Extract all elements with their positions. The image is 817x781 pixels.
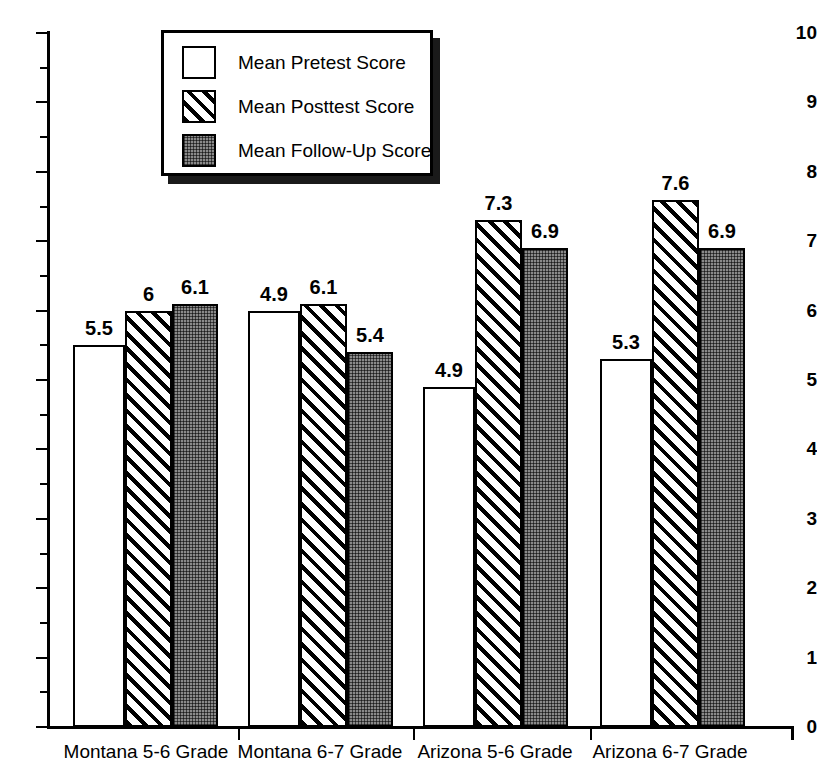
bar-value-label: 6.1	[294, 277, 354, 297]
bar-value-label: 7.6	[646, 173, 706, 193]
y-axis-major-tick	[36, 171, 48, 173]
legend-label: Mean Follow-Up Score	[238, 141, 431, 160]
y-axis-tick-label: 6	[785, 301, 817, 320]
bar-chart: 012345678910 5.566.14.96.15.44.97.36.95.…	[0, 0, 817, 781]
category-label: Montana 6-7 Grade	[220, 742, 420, 761]
y-axis-major-tick	[36, 448, 48, 450]
category-label: Arizona 5-6 Grade	[395, 742, 595, 761]
y-axis-tick-label: 3	[785, 509, 817, 528]
y-axis-tick-label: 4	[785, 439, 817, 458]
y-axis-major-tick	[36, 32, 48, 34]
y-axis-minor-tick	[40, 206, 48, 208]
y-axis-minor-tick	[40, 136, 48, 138]
x-axis-end-tick	[791, 729, 794, 740]
bar	[248, 311, 300, 727]
legend-item: Mean Pretest Score	[182, 45, 406, 79]
y-axis-major-tick	[36, 101, 48, 103]
chart-legend: Mean Pretest ScoreMean Posttest ScoreMea…	[161, 30, 433, 176]
y-axis-tick-label: 7	[785, 231, 817, 250]
bar	[73, 345, 125, 727]
bar-value-label: 5.4	[340, 325, 400, 345]
legend-label: Mean Pretest Score	[238, 53, 406, 72]
bar	[423, 387, 475, 727]
bar-value-label: 7.3	[469, 193, 529, 213]
y-axis-major-tick	[36, 310, 48, 312]
legend-item: Mean Follow-Up Score	[182, 133, 431, 167]
y-axis-minor-tick	[40, 344, 48, 346]
category-label: Arizona 6-7 Grade	[570, 742, 770, 761]
bar-value-label: 5.3	[596, 332, 656, 352]
legend-swatch-dark-stipple	[182, 134, 216, 167]
y-axis-minor-tick	[40, 622, 48, 624]
y-axis-tick-label: 0	[785, 717, 817, 736]
bar	[699, 248, 745, 727]
bar-value-label: 6.1	[165, 277, 225, 297]
y-axis-major-tick	[36, 240, 48, 242]
bar-value-label: 5.5	[69, 318, 129, 338]
y-axis-major-tick	[36, 518, 48, 520]
bar	[652, 200, 699, 727]
x-axis-group-separator	[590, 729, 592, 740]
y-axis-tick-label: 1	[785, 648, 817, 667]
y-axis-minor-tick	[40, 691, 48, 693]
legend-label: Mean Posttest Score	[238, 97, 414, 116]
x-axis-group-separator	[413, 729, 415, 740]
y-axis-tick-label: 8	[785, 162, 817, 181]
bar-value-label: 4.9	[419, 360, 479, 380]
y-axis-tick-label: 2	[785, 578, 817, 597]
bar	[172, 304, 218, 727]
y-axis-minor-tick	[40, 414, 48, 416]
legend-swatch-diagonal-hatch	[182, 90, 216, 123]
y-axis-major-tick	[36, 726, 48, 728]
bar	[347, 352, 393, 727]
y-axis-minor-tick	[40, 553, 48, 555]
bar	[300, 304, 347, 727]
y-axis-major-tick	[36, 657, 48, 659]
x-axis-group-separator	[238, 729, 240, 740]
bar-value-label: 6.9	[692, 221, 752, 241]
y-axis-minor-tick	[40, 67, 48, 69]
y-axis-tick-label: 9	[785, 92, 817, 111]
bar	[600, 359, 652, 727]
y-axis-major-tick	[36, 587, 48, 589]
bar	[125, 311, 172, 727]
bar	[475, 220, 522, 727]
y-axis-tick-label: 5	[785, 370, 817, 389]
legend-swatch-solid-white	[182, 46, 216, 79]
bar	[522, 248, 568, 727]
y-axis-minor-tick	[40, 275, 48, 277]
y-axis-tick-label: 10	[785, 23, 817, 42]
bar-value-label: 6.9	[515, 221, 575, 241]
y-axis-minor-tick	[40, 483, 48, 485]
category-label: Montana 5-6 Grade	[46, 742, 246, 761]
legend-item: Mean Posttest Score	[182, 89, 414, 123]
y-axis-major-tick	[36, 379, 48, 381]
